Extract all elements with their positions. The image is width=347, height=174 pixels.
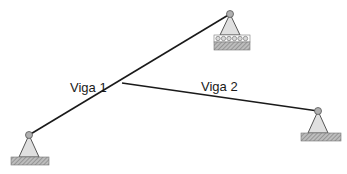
beam-viga-1 xyxy=(29,14,230,135)
ground-hatch-icon xyxy=(214,42,250,50)
roller-support-top xyxy=(214,11,250,51)
structure-diagram: Viga 1 Viga 2 xyxy=(0,0,347,174)
pinned-support-left xyxy=(11,132,49,166)
label-viga-1: Viga 1 xyxy=(70,80,107,95)
pin-icon xyxy=(26,132,33,139)
pinned-support-right xyxy=(301,108,341,142)
pin-icon xyxy=(227,11,234,18)
pin-icon xyxy=(315,108,322,115)
ground-hatch-icon xyxy=(11,157,49,165)
label-viga-2: Viga 2 xyxy=(201,79,238,94)
ground-hatch-icon xyxy=(301,133,341,141)
